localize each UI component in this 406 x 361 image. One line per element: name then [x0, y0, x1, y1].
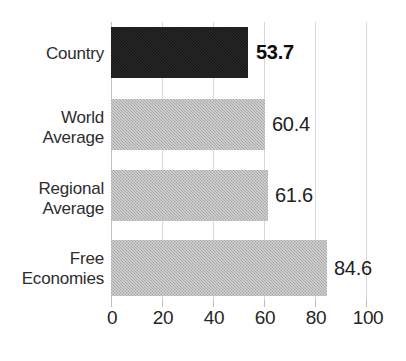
xtick-label-80: 80	[306, 307, 326, 329]
value-label-free-economies: 84.6	[334, 257, 372, 280]
xtick-label-60: 60	[255, 307, 275, 329]
tick-mark-100	[366, 300, 367, 307]
plot-area	[111, 22, 366, 300]
tick-mark-0	[111, 300, 112, 307]
category-label-free-economies-line2: Economies	[0, 269, 104, 290]
bar-regional-average[interactable]	[111, 170, 268, 221]
tick-mark-80	[315, 300, 316, 307]
bar-world-average[interactable]	[111, 99, 265, 150]
tick-mark-20	[162, 300, 163, 307]
category-label-world-average-line2: Average	[0, 128, 104, 149]
tick-mark-60	[264, 300, 265, 307]
xtick-label-20: 20	[153, 307, 173, 329]
chart-title	[0, 0, 406, 2]
category-label-free-economies-line1: Free	[0, 249, 104, 270]
bar-country[interactable]	[111, 27, 248, 78]
bar-chart: Country World Average Regional Average F…	[0, 0, 406, 361]
xtick-label-0: 0	[107, 307, 117, 329]
value-label-regional-average: 61.6	[275, 184, 313, 207]
category-label-country: Country	[0, 44, 104, 65]
xtick-label-40: 40	[204, 307, 224, 329]
category-label-regional-average-line2: Average	[0, 199, 104, 220]
category-label-regional-average-line1: Regional	[0, 179, 104, 200]
value-label-country: 53.7	[256, 41, 294, 64]
bar-free-economies[interactable]	[111, 240, 327, 296]
value-label-world-average: 60.4	[272, 113, 310, 136]
category-label-world-average-line1: World	[0, 108, 104, 129]
tick-mark-40	[213, 300, 214, 307]
xtick-label-100: 100	[353, 307, 384, 329]
